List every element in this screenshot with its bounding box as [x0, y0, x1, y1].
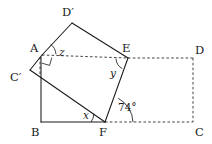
angle-label-z: z [58, 46, 65, 58]
vertex-label-F: F [99, 125, 107, 139]
geometry-figure: A B C D E F C′ D′ z y x 74° [0, 0, 212, 144]
edge-Dprime-E [72, 23, 128, 58]
vertex-label-group: A B C D E F C′ D′ [10, 5, 204, 139]
vertex-label-D-prime: D′ [62, 5, 74, 19]
vertex-label-A: A [29, 41, 39, 55]
edge-A-E [42, 55, 128, 58]
right-angle-mark-group [42, 58, 52, 66]
angle-label-x: x [83, 109, 89, 121]
vertex-label-E: E [122, 41, 130, 55]
right-angle-mark-at-A [42, 58, 52, 66]
angle-label-y: y [109, 67, 117, 79]
vertex-label-D: D [195, 43, 204, 57]
vertex-label-B: B [31, 125, 39, 139]
angle-arc-x [91, 114, 94, 122]
vertex-label-C: C [195, 125, 204, 139]
vertex-label-C-prime: C′ [10, 70, 22, 84]
angle-label-74-degrees: 74° [118, 101, 137, 113]
geometry-canvas: A B C D E F C′ D′ z y x 74° [0, 0, 212, 144]
angle-arc-y [116, 59, 122, 69]
edge-A-Dprime [42, 23, 72, 55]
